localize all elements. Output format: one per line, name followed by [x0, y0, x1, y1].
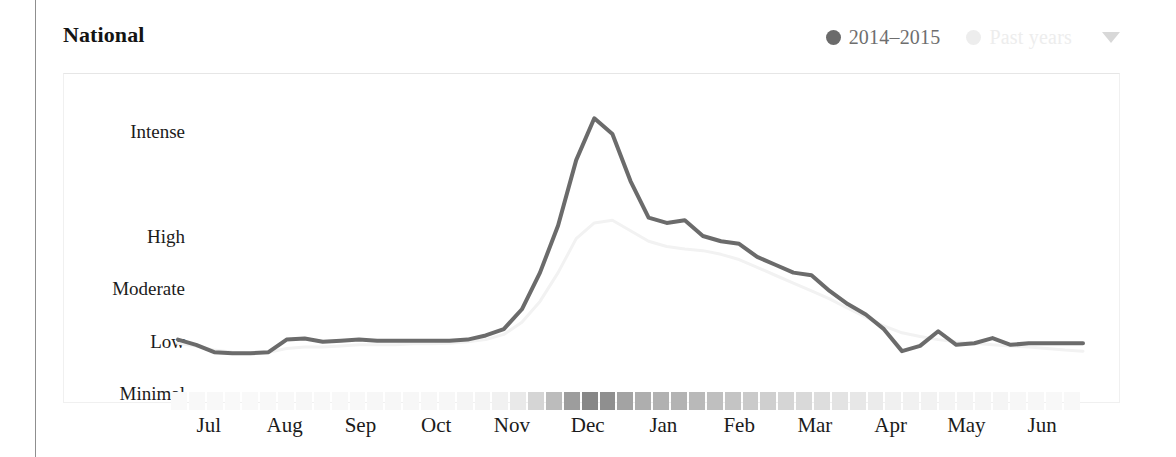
heat-cell[interactable]	[367, 392, 383, 410]
x-axis-tick-may: May	[947, 413, 986, 438]
heat-cell[interactable]	[993, 392, 1009, 410]
x-axis-tick-aug: Aug	[267, 413, 303, 438]
page-divider	[35, 0, 36, 457]
x-axis-tick-jan: Jan	[649, 413, 677, 438]
heat-cell[interactable]	[546, 392, 562, 410]
heat-cell[interactable]	[957, 392, 973, 410]
x-axis: JulAugSepOctNovDecJanFebMarAprMayJun	[63, 413, 1120, 447]
legend-label-current-season: 2014–2015	[849, 26, 941, 49]
legend-label-past-years: Past years	[989, 26, 1072, 49]
x-axis-tick-nov: Nov	[494, 413, 530, 438]
chevron-down-icon[interactable]	[1102, 32, 1120, 43]
heat-cell[interactable]	[439, 392, 455, 410]
heat-cell[interactable]	[689, 392, 705, 410]
heat-cell[interactable]	[635, 392, 651, 410]
heat-cell[interactable]	[278, 392, 294, 410]
x-axis-tick-jul: Jul	[197, 413, 222, 438]
legend-item-past-years[interactable]: Past years	[966, 26, 1072, 49]
heat-cell[interactable]	[582, 392, 598, 410]
heat-cell[interactable]	[242, 392, 258, 410]
x-axis-tick-dec: Dec	[571, 413, 605, 438]
heat-cell[interactable]	[225, 392, 241, 410]
heat-cell[interactable]	[207, 392, 223, 410]
heat-cell[interactable]	[671, 392, 687, 410]
heat-cell[interactable]	[314, 392, 330, 410]
x-axis-tick-jun: Jun	[1028, 413, 1057, 438]
heat-cell[interactable]	[171, 392, 187, 410]
heat-cell[interactable]	[189, 392, 205, 410]
heat-cell[interactable]	[939, 392, 955, 410]
heat-cell[interactable]	[457, 392, 473, 410]
heat-cell[interactable]	[868, 392, 884, 410]
heat-cell[interactable]	[528, 392, 544, 410]
heat-cell[interactable]	[725, 392, 741, 410]
heat-cell[interactable]	[850, 392, 866, 410]
heat-cell[interactable]	[1046, 392, 1062, 410]
x-axis-tick-feb: Feb	[723, 413, 755, 438]
heat-cell[interactable]	[796, 392, 812, 410]
heat-cell[interactable]	[296, 392, 312, 410]
page-title: National	[63, 22, 144, 48]
chart-legend[interactable]: 2014–2015 Past years	[826, 24, 1120, 50]
heat-cell[interactable]	[385, 392, 401, 410]
heat-cell[interactable]	[778, 392, 794, 410]
heat-cell[interactable]	[260, 392, 276, 410]
x-axis-tick-oct: Oct	[421, 413, 451, 438]
heat-cell[interactable]	[350, 392, 366, 410]
heat-cell[interactable]	[975, 392, 991, 410]
x-axis-tick-mar: Mar	[797, 413, 832, 438]
heat-cell[interactable]	[814, 392, 830, 410]
heat-cell[interactable]	[564, 392, 580, 410]
heat-cell[interactable]	[921, 392, 937, 410]
heat-cell[interactable]	[510, 392, 526, 410]
heat-cell[interactable]	[492, 392, 508, 410]
heat-cell[interactable]	[653, 392, 669, 410]
heat-cell[interactable]	[403, 392, 419, 410]
legend-dot-past-years	[966, 30, 981, 45]
heat-cell[interactable]	[885, 392, 901, 410]
heat-cell[interactable]	[1064, 392, 1080, 410]
series-line-past-years	[178, 220, 1083, 353]
heat-cell[interactable]	[475, 392, 491, 410]
flu-activity-panel: National 2014–2015 Past years IntenseHig…	[0, 0, 1176, 457]
heat-cell[interactable]	[1028, 392, 1044, 410]
heat-cell[interactable]	[1010, 392, 1026, 410]
heat-cell[interactable]	[332, 392, 348, 410]
x-axis-tick-sep: Sep	[345, 413, 377, 438]
weekly-activity-strip[interactable]	[171, 392, 1080, 410]
legend-dot-current-season	[826, 30, 841, 45]
heat-cell[interactable]	[617, 392, 633, 410]
x-axis-tick-apr: Apr	[874, 413, 907, 438]
heat-cell[interactable]	[760, 392, 776, 410]
heat-cell[interactable]	[707, 392, 723, 410]
panel-header: National 2014–2015 Past years	[63, 22, 1120, 66]
series-line-2014-2015	[178, 118, 1083, 353]
heat-cell[interactable]	[832, 392, 848, 410]
heat-cell[interactable]	[743, 392, 759, 410]
activity-line-chart	[63, 73, 1120, 403]
legend-item-current-season[interactable]: 2014–2015	[826, 26, 941, 49]
heat-cell[interactable]	[600, 392, 616, 410]
heat-cell[interactable]	[421, 392, 437, 410]
heat-cell[interactable]	[903, 392, 919, 410]
